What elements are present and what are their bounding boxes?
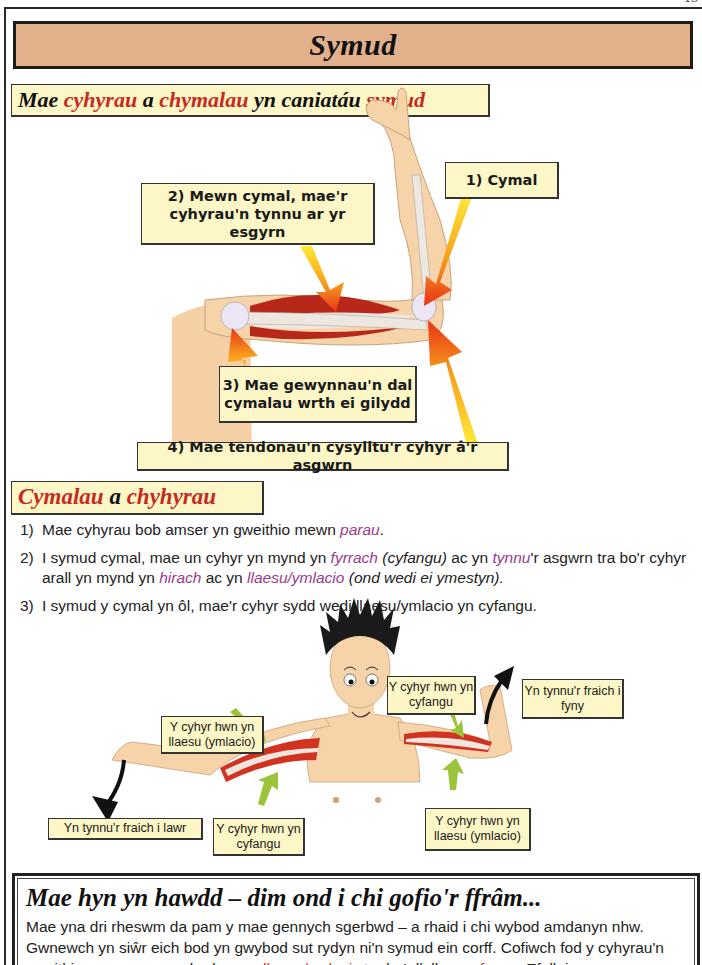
label-arm-down: Yn tynnu'r fraich i lawr <box>48 818 203 840</box>
label-left-contracting: Y cyhyr hwn yn cyfangu <box>213 818 305 856</box>
summary-title: Mae hyn yn hawdd – dim ond i chi gofio'r… <box>26 883 686 913</box>
label-right-contracting: Y cyhyr hwn yn cyfangu <box>387 676 476 715</box>
label-right-relaxing: Y cyhyr hwn yn llaesu (ymlacio) <box>425 808 531 851</box>
label-left-relaxing: Y cyhyr hwn yn llaesu (ymlacio) <box>161 716 264 754</box>
cartoon-muscle-diagram <box>0 0 702 880</box>
label-arm-up: Yn tynnu'r fraich i fyny <box>522 679 624 719</box>
summary-box: Mae hyn yn hawdd – dim ond i chi gofio'r… <box>12 873 700 965</box>
summary-body: Mae yna dri rheswm da pam y mae gennych … <box>26 916 686 965</box>
